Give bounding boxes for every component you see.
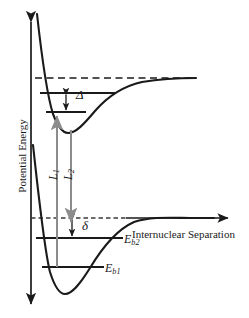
transition-label-L1-sub: 1 (52, 169, 61, 173)
transition-label-L2-sub: 2 (67, 169, 76, 173)
diagram-canvas (0, 0, 249, 318)
transition-label-L2: L2 (61, 169, 76, 180)
transition-label-L1: L1 (46, 169, 61, 180)
Eb2-label-sub: b2 (131, 238, 139, 247)
y-axis-label: Potential Energy (16, 96, 28, 216)
transition-label-L2-base: L (61, 173, 75, 180)
potential-energy-diagram: Potential Energy Internuclear Separation… (0, 0, 249, 318)
Eb1-label-sub: b1 (112, 267, 120, 276)
x-axis-label: Internuclear Separation (132, 228, 235, 240)
Eb1-label: Eb1 (105, 262, 121, 276)
transition-label-L1-base: L (46, 173, 60, 180)
Eb2-label: Eb2 (124, 233, 140, 247)
delta-upper-label: Δ (76, 88, 84, 101)
delta-lower-label: δ (82, 219, 88, 232)
lower-potential-curve (33, 145, 214, 294)
upper-potential-curve (37, 14, 196, 133)
